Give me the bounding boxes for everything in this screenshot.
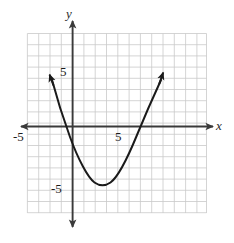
y-tick-label-neg5: -5 [51, 181, 62, 196]
x-tick-label-5: 5 [115, 129, 122, 144]
x-axis-label: x [215, 118, 222, 133]
x-tick-label-neg5: -5 [13, 129, 24, 144]
coordinate-plane-figure: y x -5 5 5 -5 [0, 0, 234, 243]
graph-screenshot: y x -5 5 5 -5 [0, 0, 234, 243]
y-axis-label: y [64, 6, 72, 21]
y-tick-label-5: 5 [60, 64, 67, 79]
